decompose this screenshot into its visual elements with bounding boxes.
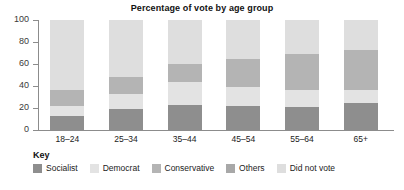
- legend-item: Democrat: [90, 163, 140, 173]
- bar-segment: [344, 90, 378, 102]
- stacked-bar: [168, 20, 202, 130]
- bar-segment: [226, 20, 260, 59]
- bar-segment: [226, 87, 260, 106]
- y-axis-tick-label: 0: [24, 124, 29, 134]
- y-axis-tick-label: 20: [19, 102, 29, 112]
- legend-swatch-icon: [152, 164, 161, 173]
- y-axis-tick-label: 60: [19, 58, 29, 68]
- bar-segment: [226, 106, 260, 130]
- y-axis-tick: 60: [0, 64, 38, 65]
- legend-swatch-icon: [33, 164, 42, 173]
- stacked-bar: [344, 20, 378, 130]
- plot-area: [38, 20, 390, 130]
- legend-item-label: Democrat: [103, 163, 140, 173]
- y-axis-tick: 80: [0, 42, 38, 43]
- legend-items: SocialistDemocratConservativeOthersDid n…: [33, 163, 399, 173]
- y-axis-tick-mark: [33, 130, 38, 131]
- y-axis-tick-label: 100: [14, 14, 29, 24]
- bar-segment: [344, 50, 378, 91]
- legend-item-label: Others: [239, 163, 265, 173]
- legend-item-label: Did not vote: [290, 163, 335, 173]
- bar-segment: [50, 106, 84, 116]
- legend-swatch-icon: [226, 164, 235, 173]
- bar-segment: [109, 94, 143, 109]
- x-axis-category-label: 35–44: [155, 134, 215, 144]
- stacked-bar: [285, 20, 319, 130]
- y-axis-tick: 100: [0, 20, 38, 21]
- bar-segment: [109, 77, 143, 94]
- y-axis-tick-label: 40: [19, 80, 29, 90]
- legend-item-label: Conservative: [165, 163, 215, 173]
- bar-segment: [109, 20, 143, 77]
- y-axis-tick-label: 80: [19, 36, 29, 46]
- legend-item: Others: [226, 163, 265, 173]
- x-axis-category-label: 18–24: [37, 134, 97, 144]
- bar-segment: [109, 109, 143, 130]
- legend-item: Socialist: [33, 163, 78, 173]
- bar-segment: [168, 20, 202, 64]
- stacked-bar-chart-figure: Percentage of vote by age group 10080604…: [0, 0, 404, 190]
- stacked-bar: [109, 20, 143, 130]
- chart-legend: Key SocialistDemocratConservativeOthersD…: [33, 150, 399, 173]
- legend-swatch-icon: [90, 164, 99, 173]
- chart-title: Percentage of vote by age group: [0, 3, 404, 13]
- x-axis-category-label: 25–34: [96, 134, 156, 144]
- bar-segment: [285, 54, 319, 90]
- legend-item: Conservative: [152, 163, 215, 173]
- bar-segment: [285, 107, 319, 130]
- bar-segment: [168, 64, 202, 82]
- bar-segment: [344, 20, 378, 50]
- legend-swatch-icon: [277, 164, 286, 173]
- bar-segment: [50, 90, 84, 105]
- y-axis-tick: 0: [0, 130, 38, 131]
- x-axis-category-label: 65+: [331, 134, 391, 144]
- x-axis-category-label: 45–54: [213, 134, 273, 144]
- stacked-bar: [226, 20, 260, 130]
- legend-title: Key: [33, 150, 399, 160]
- x-axis-line: [38, 130, 394, 131]
- bar-segment: [50, 20, 84, 90]
- legend-item-label: Socialist: [46, 163, 78, 173]
- bar-segment: [285, 20, 319, 54]
- stacked-bar: [50, 20, 84, 130]
- bar-segment: [344, 103, 378, 131]
- y-axis-tick: 40: [0, 86, 38, 87]
- bar-segment: [50, 116, 84, 130]
- bar-segment: [168, 105, 202, 130]
- x-axis-category-label: 55–64: [272, 134, 332, 144]
- bar-segment: [226, 59, 260, 88]
- y-axis-tick: 20: [0, 108, 38, 109]
- legend-item: Did not vote: [277, 163, 335, 173]
- bar-segment: [285, 90, 319, 107]
- bar-segment: [168, 82, 202, 105]
